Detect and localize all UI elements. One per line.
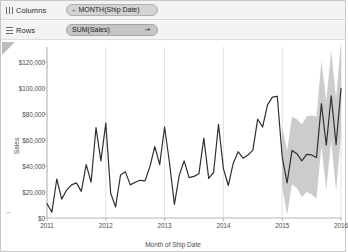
columns-shelf-label-text: Columns <box>16 6 46 15</box>
sales-forecast-line-chart <box>1 41 347 252</box>
y-axis-tick-label: $40,000 <box>22 163 45 170</box>
columns-shelf[interactable]: Columns + MONTH(Ship Date) <box>1 1 345 20</box>
y-axis-tick-label: $0 <box>38 215 45 222</box>
columns-drop-zone[interactable]: + MONTH(Ship Date) <box>62 1 345 20</box>
y-axis-tick-label: $80,000 <box>22 111 45 118</box>
chart-view: $0$20,000$40,000$60,000$80,000$100,000$1… <box>1 41 345 251</box>
x-axis-tick-label: 2012 <box>99 222 113 229</box>
rows-bars-icon <box>6 27 13 34</box>
rows-shelf[interactable]: Rows SUM(Sales) ➚ <box>1 21 345 40</box>
y-axis-tick-label: $120,000 <box>19 59 45 66</box>
x-axis-tick-label: 2014 <box>216 222 230 229</box>
y-axis-tick-label: $60,000 <box>22 137 45 144</box>
y-axis-title: Sales <box>13 138 20 154</box>
columns-shelf-label: Columns <box>1 6 62 15</box>
pill-sum-sales[interactable]: SUM(Sales) ➚ <box>66 24 158 36</box>
y-axis-tick-labels: $0$20,000$40,000$60,000$80,000$100,000$1… <box>1 41 45 251</box>
x-axis-tick-label: 2013 <box>158 222 172 229</box>
y-axis-tick-label: $100,000 <box>19 85 45 92</box>
pill-month-ship-date[interactable]: + MONTH(Ship Date) <box>66 4 158 16</box>
x-axis-title: Month of Ship Date <box>1 241 345 248</box>
pill-label: MONTH(Ship Date) <box>79 6 140 13</box>
rows-shelf-label-text: Rows <box>16 26 35 35</box>
x-axis-tick-label: 2015 <box>275 222 289 229</box>
forecast-indicator-icon: ➚ <box>144 25 153 34</box>
actual-sales-line <box>47 96 277 212</box>
rows-shelf-label: Rows <box>1 26 62 35</box>
null-indicator-left: ⌐ <box>7 209 11 215</box>
x-axis-tick-label: 2011 <box>40 222 54 229</box>
x-axis-tick-labels: 201120122013201420152016 <box>1 222 345 234</box>
columns-bars-icon <box>6 7 13 14</box>
y-axis-tick-label: $20,000 <box>22 189 45 196</box>
pill-label: SUM(Sales) <box>72 26 110 33</box>
pill-expand-icon[interactable]: + <box>72 7 76 13</box>
x-axis-tick-label: 2016 <box>334 222 348 229</box>
rows-drop-zone[interactable]: SUM(Sales) ➚ <box>62 21 345 40</box>
